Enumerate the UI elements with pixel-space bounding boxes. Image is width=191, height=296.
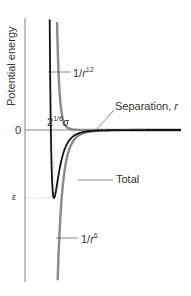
r6-curve (58, 130, 181, 280)
epsilon-tick-label: ε (12, 193, 16, 202)
separation-label: Separation, r (115, 101, 178, 112)
zero-tick-label: 0 (15, 125, 21, 136)
total-label: Total (116, 174, 139, 185)
r12-label: 1/r12 (73, 66, 94, 79)
y-axis-label: Potential energy (5, 27, 17, 107)
rmin-label: 21/6σ (47, 115, 69, 128)
r6-label: 1/r6 (81, 232, 98, 245)
separation-leader (97, 110, 114, 129)
lennard-jones-chart (0, 0, 191, 296)
